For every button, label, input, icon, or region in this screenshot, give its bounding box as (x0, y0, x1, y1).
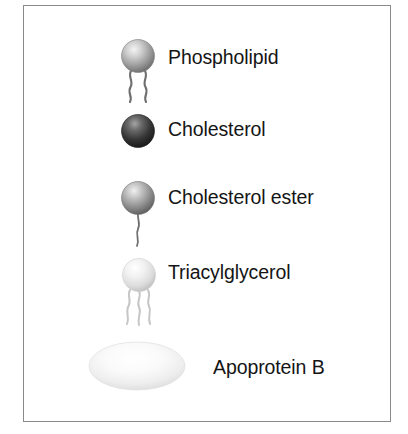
cholesterol-glyph (116, 112, 162, 152)
cholesterol-sphere (122, 115, 155, 148)
legend-label-apoprotein-b: Apoprotein B (213, 358, 325, 378)
legend-label-triacylglycerol: Triacylglycerol (168, 263, 290, 283)
cholesterol-ester-tail (137, 213, 139, 246)
phospholipid-head-sphere (122, 40, 155, 73)
phospholipid-tails (129, 71, 146, 102)
apoprotein-b-ellipse (89, 342, 185, 390)
phospholipid-glyph (116, 38, 162, 108)
legend-label-phospholipid: Phospholipid (168, 48, 278, 68)
cholesterol-ester-glyph (116, 180, 162, 252)
legend-figure: Phospholipid Cholesterol (0, 0, 408, 434)
triacylglycerol-head-sphere (123, 259, 156, 292)
cholesterol-ester-head-sphere (122, 182, 155, 215)
legend-label-cholesterol: Cholesterol (168, 120, 266, 140)
triacylglycerol-glyph (114, 256, 166, 332)
legend-label-cholesterol-ester: Cholesterol ester (168, 188, 314, 208)
triacylglycerol-tails (127, 290, 150, 325)
apoprotein-b-glyph (86, 338, 192, 396)
